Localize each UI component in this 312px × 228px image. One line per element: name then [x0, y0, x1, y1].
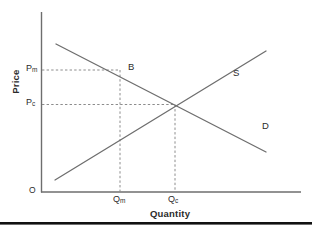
bottom-divider [0, 222, 312, 225]
x-axis-title: Quantity [150, 209, 190, 219]
supply-demand-figure: Price Quantity Pm Pc Qm Qc O B S D [0, 0, 312, 228]
x-tick-qc-sub: c [175, 197, 178, 204]
supply-curve-label: S [233, 68, 239, 78]
point-b-label: B [128, 62, 134, 72]
demand-curve [56, 44, 266, 152]
y-axis-title: Price [11, 82, 21, 94]
y-axis-title-text: Price [11, 82, 21, 94]
plot-canvas [0, 0, 312, 228]
y-tick-label-pm: Pm [26, 64, 37, 74]
x-tick-qc-main: Q [168, 194, 175, 204]
x-tick-qm-sub: m [120, 197, 125, 204]
y-tick-pc-sub: c [32, 100, 35, 107]
x-tick-label-qm: Qm [113, 195, 125, 205]
origin-label: O [29, 186, 36, 195]
y-tick-pm-sub: m [32, 66, 37, 73]
x-tick-label-qc: Qc [168, 195, 178, 205]
x-tick-qm-main: Q [113, 194, 120, 204]
y-tick-label-pc: Pc [26, 98, 35, 108]
demand-curve-label: D [262, 121, 269, 131]
